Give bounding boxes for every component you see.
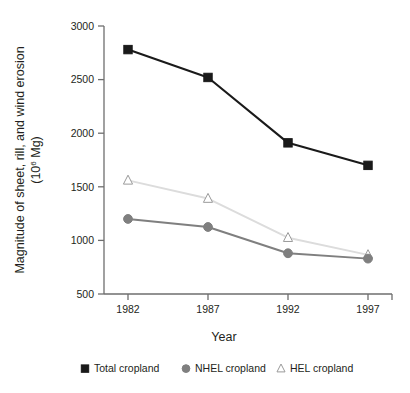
y-axis-title-line2: (106 Mg): [29, 136, 43, 184]
x-tick-label: 1992: [276, 303, 300, 315]
y-axis-unit-prefix: (10: [29, 166, 43, 184]
chart-figure: 50010001500200025003000 1982198719921997…: [0, 0, 410, 393]
marker-square: [81, 365, 88, 372]
legend-label: HEL cropland: [290, 362, 353, 374]
marker-circle: [204, 223, 213, 232]
marker-circle: [284, 249, 293, 258]
x-tick-label: 1982: [116, 303, 140, 315]
marker-square: [284, 139, 292, 147]
chart-legend: Total croplandNHEL croplandHEL cropland: [81, 362, 353, 374]
y-tick-label: 3000: [71, 20, 95, 32]
y-tick-label: 500: [76, 288, 94, 300]
marker-circle: [124, 215, 133, 224]
x-tick-label: 1987: [196, 303, 220, 315]
marker-square: [204, 73, 212, 81]
x-axis-title: Year: [211, 330, 236, 344]
legend-label: NHEL cropland: [195, 362, 266, 374]
legend-item-nhel-cropland: NHEL cropland: [182, 362, 266, 374]
erosion-line-chart: 50010001500200025003000 1982198719921997…: [0, 0, 410, 393]
y-tick-label: 2500: [71, 73, 95, 85]
y-tick-label: 1000: [71, 234, 95, 246]
y-axis-unit-suffix: Mg): [29, 136, 43, 161]
y-tick-label: 2000: [71, 127, 95, 139]
legend-label: Total cropland: [94, 362, 160, 374]
y-tick-label: 1500: [71, 181, 95, 193]
chart-background: [0, 0, 410, 393]
x-tick-label: 1997: [356, 303, 380, 315]
y-axis-title-line1: Magnitude of sheet, rill, and wind erosi…: [13, 46, 27, 273]
marker-circle: [364, 254, 373, 263]
marker-square: [364, 161, 372, 169]
marker-square: [124, 45, 132, 53]
marker-circle: [182, 365, 190, 373]
legend-item-total-cropland: Total cropland: [81, 362, 159, 374]
